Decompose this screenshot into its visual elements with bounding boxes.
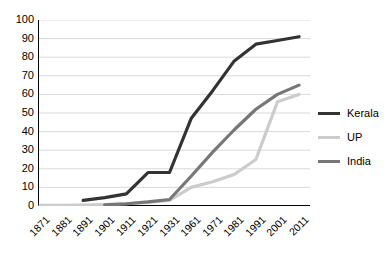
y-tick-label: 10	[0, 181, 34, 192]
y-tick-label: 70	[0, 70, 34, 81]
y-tick-label: 30	[0, 144, 34, 155]
plot-area	[38, 20, 310, 206]
legend-label: UP	[347, 131, 362, 143]
y-tick-label: 40	[0, 126, 34, 137]
plot-svg	[38, 20, 310, 206]
y-tick-label: 0	[0, 200, 34, 211]
legend-label: Kerala	[347, 107, 379, 119]
y-tick-label: 90	[0, 33, 34, 44]
literacy-rate-line-chart: 0102030405060708090100 18711881189119011…	[0, 0, 391, 253]
gridlines	[38, 20, 310, 206]
legend-label: India	[347, 155, 371, 167]
y-tick-label: 60	[0, 88, 34, 99]
y-axis: 0102030405060708090100	[0, 20, 34, 206]
legend-swatch	[318, 112, 340, 115]
y-tick-label: 50	[0, 107, 34, 118]
legend-item-kerala[interactable]: Kerala	[318, 101, 390, 125]
legend-swatch	[318, 136, 340, 139]
chart-legend: KeralaUPIndia	[318, 101, 390, 173]
series-lines	[40, 37, 299, 206]
legend-item-up[interactable]: UP	[318, 125, 390, 149]
legend-swatch	[318, 160, 340, 163]
y-tick-label: 100	[0, 14, 34, 25]
y-tick-label: 20	[0, 163, 34, 174]
x-axis: 1871188118911901191119211931196119711981…	[38, 206, 310, 252]
y-tick-label: 80	[0, 51, 34, 62]
legend-item-india[interactable]: India	[318, 149, 390, 173]
